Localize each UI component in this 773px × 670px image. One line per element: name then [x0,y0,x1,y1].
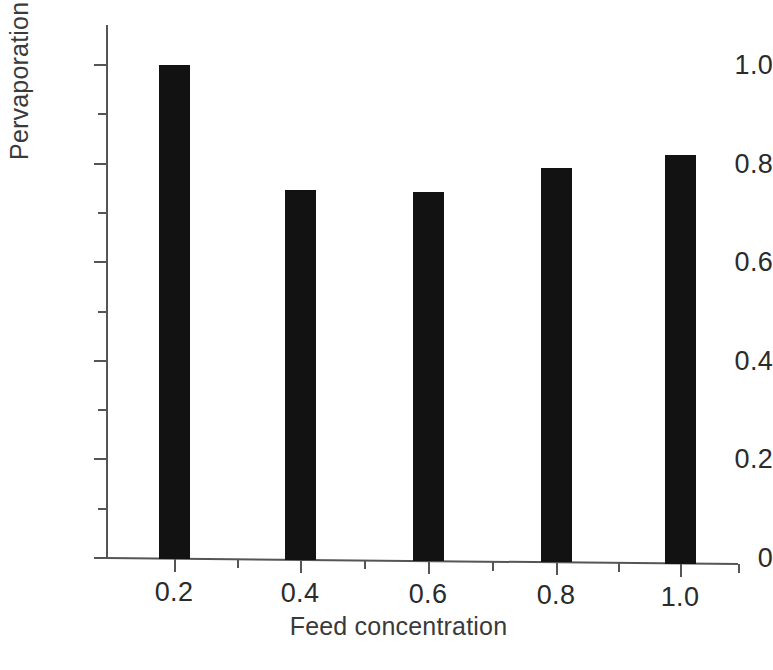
x-axis-tick-label: 0.2 [129,577,219,608]
y-axis-tick-label: 0.8 [687,148,773,179]
x-axis-title-text: Feed concentration [290,612,508,640]
bar [413,192,444,561]
x-axis-minor-tick [364,560,366,569]
bar [159,65,190,559]
y-axis-tick [94,458,107,460]
y-axis-minor-tick [98,409,107,411]
x-axis-minor-tick [237,559,239,568]
x-axis-tick-label: 0.8 [511,580,601,611]
x-axis-title: Feed concentration [0,612,773,641]
y-axis-line [106,25,108,559]
bar [541,168,572,562]
x-axis-tick [556,562,558,575]
y-axis-minor-tick [98,311,107,313]
x-axis-tick-label: 0.6 [383,579,473,610]
y-axis-tick [94,163,107,165]
y-axis-tick-label: 0.6 [687,247,773,278]
y-axis-minor-tick [98,113,107,115]
y-axis-tick-label: 0 [687,543,773,574]
y-axis-tick [94,64,107,66]
y-axis-tick-label: 0.4 [687,345,773,376]
x-axis-tick-label: 0.4 [255,578,345,609]
y-axis-tick [94,360,107,362]
y-axis-tick [94,557,107,559]
x-axis-tick [300,560,302,573]
x-axis-tick-label: 1.0 [635,582,725,613]
x-axis-tick [680,564,682,577]
x-axis-tick [174,559,176,572]
y-axis-minor-tick [98,212,107,214]
x-axis-tick [428,561,430,574]
bar-chart-figure: 00.20.40.60.81.0 0.20.40.60.81.0 Feed co… [0,0,773,670]
y-axis-tick [94,261,107,263]
x-axis-minor-tick [492,562,494,571]
y-axis-title: Pervaporation selectivity [0,0,41,357]
y-axis-minor-tick [98,508,107,510]
bar [665,155,696,564]
y-axis-tick-label: 1.0 [687,50,773,81]
y-axis-tick-label: 0.2 [687,444,773,475]
x-axis-minor-tick [618,563,620,572]
bar [285,190,316,560]
x-axis-minor-tick [738,564,740,573]
